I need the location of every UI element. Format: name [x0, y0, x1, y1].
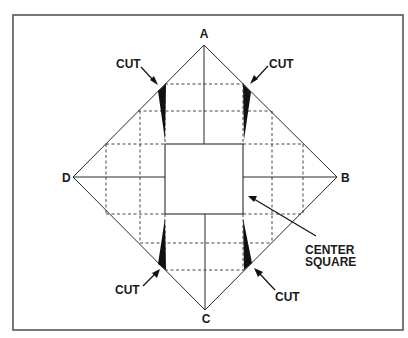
vertex-label-c: C [202, 312, 211, 326]
vertex-label-b: B [341, 171, 350, 185]
center-square-label-line2: SQUARE [305, 255, 356, 269]
cut-label-bottom-right: CUT [275, 290, 300, 304]
arrow-icon [152, 269, 160, 278]
vertex-label-a: A [200, 27, 209, 41]
cut-wedge-top-left [158, 84, 166, 140]
vertex-label-d: D [62, 171, 71, 185]
cut-wedge-top-right [243, 84, 251, 140]
cut-label-top-right: CUT [269, 57, 294, 71]
arrow-icon [248, 196, 257, 202]
center-square [165, 144, 243, 214]
arrow-icon [250, 75, 258, 84]
cut-wedge-bottom-left [158, 218, 166, 270]
cut-wedge-bottom-right [243, 218, 252, 270]
fold-cut-diagram: A B C D CUT CUT CUT CUT CENTER SQUARE [0, 0, 408, 338]
cut-label-bottom-left: CUT [115, 283, 140, 297]
cut-label-top-left: CUT [116, 57, 141, 71]
